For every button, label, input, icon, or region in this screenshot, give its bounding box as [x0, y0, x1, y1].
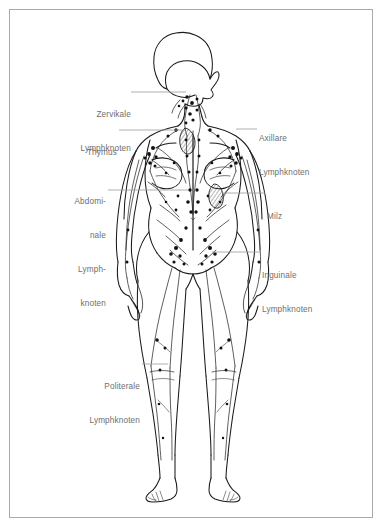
label-inguinal-line2: Lymphknoten — [262, 304, 362, 315]
label-popliteal-line1: Politerale — [52, 381, 140, 392]
label-thymus-line1: Thymus — [46, 147, 117, 158]
label-cervical-line1: Zervikale — [46, 109, 131, 120]
label-abdominal-line1: Abdomi- — [40, 196, 106, 207]
lymphatic-vessels — [125, 95, 260, 460]
label-axillary-line2: Lymphknoten — [259, 167, 359, 178]
label-popliteal-line2: Lymphknoten — [52, 415, 140, 426]
label-abdominal-line3: Lymph- — [40, 264, 106, 275]
spleen-organ — [209, 184, 224, 208]
label-thymus: Thymus — [46, 124, 117, 170]
label-popliteal: Politerale Lymphknoten — [52, 358, 140, 438]
label-inguinal: Inguinale Lymphknoten — [262, 247, 362, 327]
label-abdominal-line2: nale — [40, 230, 106, 241]
label-abdominal: Abdomi- nale Lymph- knoten — [40, 173, 106, 321]
label-axillary: Axillare Lymphknoten — [259, 110, 359, 190]
label-abdominal-line4: knoten — [40, 298, 106, 309]
label-spleen: Milz — [267, 188, 327, 234]
label-spleen-line1: Milz — [267, 211, 327, 222]
label-inguinal-line1: Inguinale — [262, 270, 362, 281]
label-axillary-line1: Axillare — [259, 133, 359, 144]
